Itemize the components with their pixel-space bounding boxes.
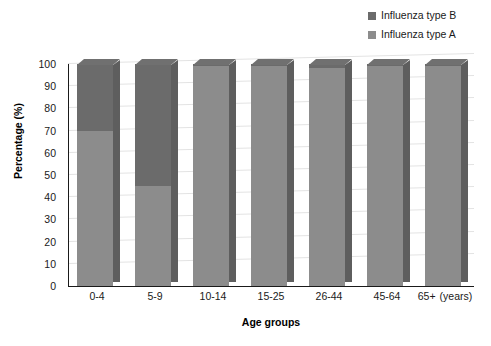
bar-stack (425, 64, 461, 286)
bar-segment (309, 68, 345, 286)
bar-series-container (68, 64, 474, 286)
bar-segment (193, 66, 229, 286)
bar-stack (367, 64, 403, 286)
legend-item-influenza-type-a[interactable]: Influenza type A (368, 25, 491, 44)
bar-segment (251, 66, 287, 286)
bar-segment (77, 64, 113, 131)
x-axis-tick-label: 65+(years) (418, 290, 472, 302)
y-axis-tick-label: 50 (0, 169, 62, 181)
legend-swatch-icon-type-b (368, 12, 376, 20)
bar-segment (135, 186, 171, 286)
bar-stack (193, 64, 229, 286)
bar-segment (77, 131, 113, 286)
bar-top-face (135, 59, 178, 65)
x-axis-tick-label: 5-9 (147, 290, 162, 302)
x-axis-tick-label: 15-25 (258, 290, 285, 302)
x-axis-line (68, 286, 474, 287)
chart-legend: Influenza type B Influenza type A (368, 6, 491, 44)
y-axis-tick-label: 100 (0, 58, 62, 70)
bar-top-face (367, 59, 410, 65)
bar-segment (135, 64, 171, 186)
bar-side-face (287, 60, 294, 282)
x-axis-tick-label: 45-64 (374, 290, 401, 302)
plot-area (68, 64, 474, 286)
bar-side-face (229, 60, 236, 282)
legend-item-influenza-type-b[interactable]: Influenza type B (368, 6, 491, 25)
bar-side-face (345, 60, 352, 282)
legend-swatch-icon-type-a (368, 31, 376, 39)
bar-side-face (461, 60, 468, 282)
influenza-stacked-bar-chart: Influenza type B Influenza type A 010203… (0, 0, 491, 346)
y-axis-tick-label: 10 (0, 258, 62, 270)
y-axis-tick-label: 20 (0, 236, 62, 248)
bar-top-face (193, 59, 236, 65)
y-axis-ticks: 0102030405060708090100 (0, 64, 62, 287)
bar-stack (251, 64, 287, 286)
y-axis-tick-label: 70 (0, 125, 62, 137)
x-axis-tick-label: 0-4 (89, 290, 104, 302)
bar-side-face (113, 60, 120, 282)
x-axis-tick-label: 26-44 (316, 290, 343, 302)
legend-label-type-b: Influenza type B (381, 10, 456, 21)
bar-stack (77, 64, 113, 286)
y-axis-tick-label: 40 (0, 191, 62, 203)
y-axis-title: Percentage (%) (12, 71, 24, 211)
y-axis-tick-label: 60 (0, 147, 62, 159)
bar-top-face (425, 59, 468, 65)
x-axis-unit-note: (years) (440, 290, 473, 302)
bar-segment (367, 66, 403, 286)
bar-top-face (309, 59, 352, 65)
bar-top-face (251, 59, 294, 65)
bar-top-face (77, 59, 120, 65)
y-axis-tick-label: 30 (0, 213, 62, 225)
x-axis-title: Age groups (68, 316, 474, 328)
y-axis-line (68, 64, 69, 287)
y-axis-tick-label: 90 (0, 80, 62, 92)
legend-label-type-a: Influenza type A (381, 29, 456, 40)
bar-stack (309, 64, 345, 286)
x-axis-tick-label: 10-14 (200, 290, 227, 302)
bar-side-face (403, 60, 410, 282)
x-axis-ticks: 0-45-910-1415-2526-4445-6465+(years) (68, 290, 491, 306)
y-axis-tick-label: 80 (0, 102, 62, 114)
bar-stack (135, 64, 171, 286)
bar-side-face (171, 60, 178, 282)
bar-segment (425, 66, 461, 286)
y-axis-tick-label: 0 (0, 280, 62, 292)
